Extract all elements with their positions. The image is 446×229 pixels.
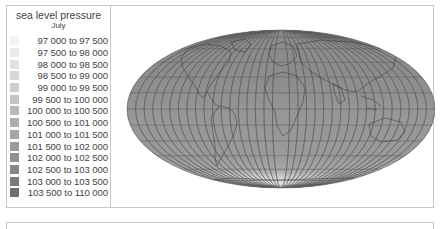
legend-title: sea level pressure [7,9,110,21]
legend-item: 101 500 to 102 000 [7,140,110,152]
legend-label: 102 500 to 103 000 [22,164,108,175]
legend-label: 103 500 to 110 000 [22,187,108,198]
legend-item: 99 000 to 99 500 [7,82,110,94]
legend-swatch [10,153,19,162]
legend-label: 99 500 to 100 000 [22,94,108,105]
legend-swatch [10,71,19,80]
world-map[interactable] [111,6,435,207]
legend-label: 103 000 to 103 500 [22,176,108,187]
legend-item: 102 000 to 102 500 [7,152,110,164]
legend-item: 103 000 to 103 500 [7,175,110,187]
legend-swatch [10,36,19,45]
legend-label: 102 000 to 102 500 [22,152,108,163]
legend-label: 97 000 to 97 500 [22,35,108,46]
map-frame: sea level pressure July 97 000 to 97 500… [6,5,434,208]
legend-swatch [10,165,19,174]
legend-label: 97 500 to 98 000 [22,47,108,58]
legend-label: 99 000 to 99 500 [22,82,108,93]
legend-subtitle: July [7,21,110,31]
legend-label: 98 500 to 99 000 [22,70,108,81]
legend-item: 100 500 to 101 000 [7,117,110,129]
legend-item: 97 500 to 98 000 [7,47,110,59]
legend: sea level pressure July 97 000 to 97 500… [7,6,111,207]
legend-item: 98 000 to 98 500 [7,58,110,70]
legend-label: 98 000 to 98 500 [22,59,108,70]
legend-swatch [10,177,19,186]
legend-item: 98 500 to 99 000 [7,70,110,82]
legend-swatch [10,106,19,115]
legend-label: 100 000 to 100 500 [22,105,108,116]
legend-swatch [10,95,19,104]
map-surface [111,6,435,207]
legend-swatch [10,83,19,92]
legend-swatch [10,130,19,139]
legend-swatch [10,188,19,197]
secondary-panel [6,222,434,229]
legend-label: 100 500 to 101 000 [22,117,108,128]
legend-item: 100 000 to 100 500 [7,105,110,117]
legend-swatch [10,118,19,127]
legend-items: 97 000 to 97 500 97 500 to 98 000 98 000… [7,35,110,199]
legend-swatch [10,48,19,57]
legend-item: 102 500 to 103 000 [7,164,110,176]
legend-item: 97 000 to 97 500 [7,35,110,47]
legend-item: 101 000 to 101 500 [7,129,110,141]
legend-item: 103 500 to 110 000 [7,187,110,199]
map-area[interactable] [111,6,433,207]
legend-swatch [10,142,19,151]
legend-item: 99 500 to 100 000 [7,93,110,105]
legend-swatch [10,60,19,69]
legend-label: 101 500 to 102 000 [22,141,108,152]
legend-label: 101 000 to 101 500 [22,129,108,140]
